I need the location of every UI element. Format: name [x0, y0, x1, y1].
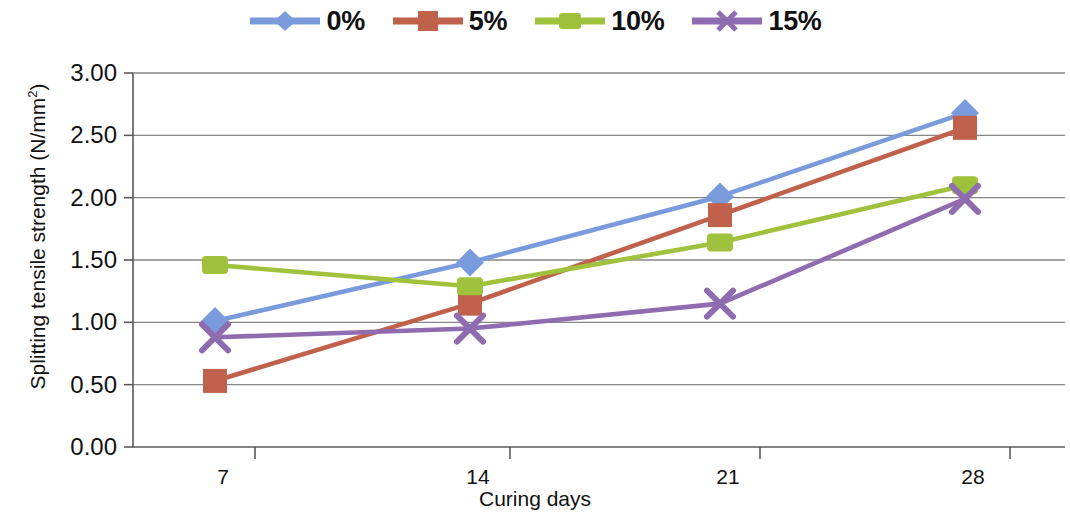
x-axis-title: Curing days: [0, 487, 1070, 511]
svg-text:2.00: 2.00: [70, 184, 117, 211]
svg-text:14: 14: [466, 465, 490, 488]
plot-area: 0.000.501.001.502.002.503.00 7142128: [0, 0, 1070, 520]
svg-text:1.00: 1.00: [70, 308, 117, 335]
y-axis-title: Splitting tensile strength (N/mm2): [25, 42, 50, 432]
svg-text:28: 28: [961, 465, 984, 488]
series-0pct: [201, 99, 979, 335]
y-axis-title-text: Splitting tensile strength (N/mm: [26, 98, 49, 390]
y-axis-title-superscript: 2: [25, 91, 40, 98]
x-axis-ticks: 7142128: [217, 447, 1010, 488]
svg-text:1.50: 1.50: [70, 246, 117, 273]
y-axis-ticks: 0.000.501.001.502.002.503.00: [70, 59, 133, 460]
svg-text:21: 21: [716, 465, 739, 488]
svg-text:2.50: 2.50: [70, 121, 117, 148]
y-axis-title-tail: ): [26, 84, 49, 91]
series-5pct: [203, 116, 977, 393]
series-10pct: [202, 176, 978, 295]
svg-text:0.00: 0.00: [70, 433, 117, 460]
data-series: [201, 99, 979, 393]
chart-container: 0% 5% 10% 15% 0.000.501: [0, 0, 1070, 520]
svg-text:7: 7: [217, 465, 229, 488]
svg-text:0.50: 0.50: [70, 371, 117, 398]
svg-text:3.00: 3.00: [70, 59, 117, 86]
